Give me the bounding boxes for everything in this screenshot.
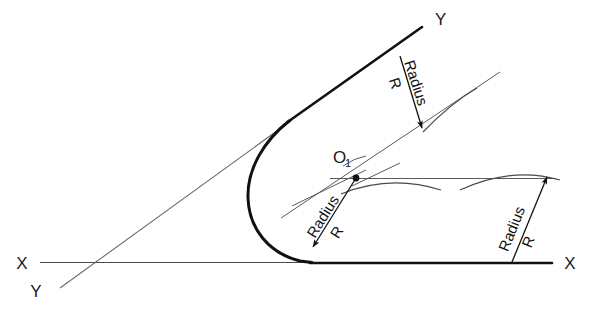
technical-drawing-canvas: O 1 X X Y Y Radius R Radius R Radius R bbox=[0, 0, 595, 312]
line-yy-bold-upper bbox=[289, 27, 422, 121]
dim-label-radius-upper-right: Radius bbox=[401, 58, 432, 108]
axis-label-x-left: X bbox=[16, 254, 27, 273]
axis-label-y-bottom: Y bbox=[30, 282, 41, 301]
fillet-arc-radius-r bbox=[248, 121, 312, 263]
axis-labels: X X Y Y bbox=[16, 10, 575, 301]
dim-group-lower-right: Radius R bbox=[495, 204, 547, 261]
center-point-dot bbox=[353, 175, 360, 182]
construction-lines bbox=[40, 72, 560, 288]
dim-group-upper-right: Radius R bbox=[382, 58, 432, 114]
axis-label-x-right: X bbox=[564, 254, 575, 273]
dim-group-center: Radius R bbox=[303, 192, 359, 251]
center-point-o1: O 1 bbox=[333, 148, 359, 181]
dim-value-r-upper-right: R bbox=[386, 76, 406, 92]
axis-label-y-top: Y bbox=[435, 10, 446, 29]
center-point-subscript: 1 bbox=[345, 157, 351, 169]
dim-value-r-center: R bbox=[326, 223, 346, 241]
compass-arc-upper bbox=[423, 88, 477, 132]
diagram-svg: O 1 X X Y Y Radius R Radius R Radius R bbox=[0, 0, 595, 312]
dim-value-r-lower-right: R bbox=[518, 233, 538, 250]
